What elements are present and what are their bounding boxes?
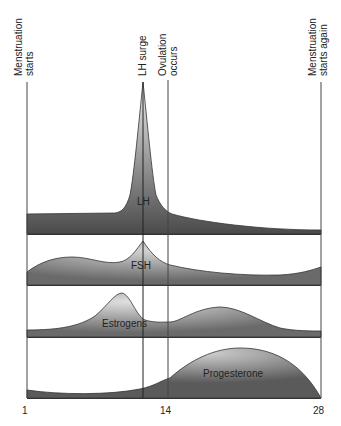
progesterone-label: Progesterone <box>203 368 263 379</box>
tick-day-14: 14 <box>160 405 171 416</box>
lh-label: LH <box>137 196 150 207</box>
label-line: Ovulation <box>157 34 168 76</box>
estrogens-area <box>27 293 321 337</box>
tick-day-28: 28 <box>313 405 324 416</box>
label-ovulation: Ovulation occurs <box>157 34 179 76</box>
tick-day-1: 1 <box>22 405 28 416</box>
progesterone-area <box>27 348 321 398</box>
label-line: Menstruation <box>13 18 24 76</box>
lh-area <box>27 82 321 234</box>
label-line: starts again <box>318 18 329 76</box>
label-menstruation-starts: Menstruation starts <box>13 18 35 76</box>
label-line: occurs <box>168 34 179 76</box>
label-line: Menstruation <box>307 18 318 76</box>
fsh-label: FSH <box>131 260 151 271</box>
label-line: LH surge <box>137 35 148 76</box>
fsh-area <box>27 241 321 285</box>
label-lh-surge: LH surge <box>137 35 148 76</box>
label-menstruation-again: Menstruation starts again <box>307 18 329 76</box>
estrogens-label: Estrogens <box>102 318 147 329</box>
label-line: starts <box>24 18 35 76</box>
